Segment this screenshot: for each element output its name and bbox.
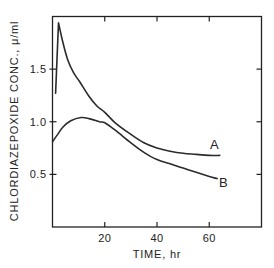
- line-chart: 20 40 60 0.5 1.0 1.5 TIME, hr CHLORDIAZE…: [0, 0, 274, 268]
- series-label-a: A: [210, 137, 219, 152]
- x-tick-label: 20: [98, 232, 111, 244]
- y-tick-label: 1.0: [30, 116, 47, 128]
- y-tick-label: 0.5: [30, 168, 47, 180]
- x-tick-label: 40: [150, 232, 163, 244]
- x-tick-label: 60: [203, 232, 216, 244]
- plot-frame: [53, 17, 262, 228]
- y-axis-title: CHLORDIAZEPOXIDE CONC., μ/ml: [8, 21, 20, 221]
- y-axis-tick-labels: 0.5 1.0 1.5: [30, 63, 47, 180]
- series-label-b: B: [219, 175, 228, 190]
- series-line-b: [53, 117, 218, 178]
- y-tick-label: 1.5: [30, 63, 47, 75]
- x-axis-tick-labels: 20 40 60: [98, 232, 216, 244]
- x-axis-title: TIME, hr: [133, 248, 182, 260]
- series-line-a: [56, 23, 220, 156]
- x-axis-ticks: [105, 17, 210, 228]
